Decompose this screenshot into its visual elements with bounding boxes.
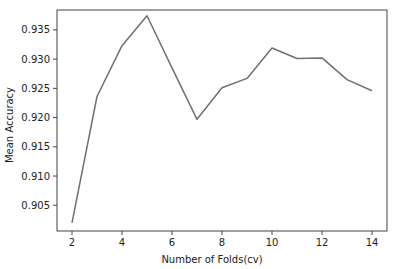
y-tick-label: 0.915: [21, 141, 50, 152]
x-tick-label: 10: [266, 237, 279, 248]
plot-frame: [57, 10, 387, 231]
x-axis: 2468101214: [69, 231, 379, 248]
y-tick-label: 0.920: [21, 112, 50, 123]
y-tick-label: 0.930: [21, 54, 50, 65]
y-axis-label: Mean Accuracy: [4, 87, 15, 163]
x-axis-label: Number of Folds(cv): [161, 254, 262, 265]
plot-area: [57, 10, 387, 231]
y-tick-label: 0.925: [21, 83, 50, 94]
line-chart: 0.9050.9100.9150.9200.9250.9300.935 2468…: [0, 0, 400, 269]
x-tick-label: 6: [169, 237, 175, 248]
x-tick-label: 2: [69, 237, 75, 248]
y-tick-label: 0.905: [21, 200, 50, 211]
x-tick-label: 8: [219, 237, 225, 248]
y-tick-label: 0.935: [21, 24, 50, 35]
x-tick-label: 12: [316, 237, 329, 248]
x-tick-label: 4: [119, 237, 125, 248]
x-tick-label: 14: [366, 237, 379, 248]
y-tick-label: 0.910: [21, 171, 50, 182]
series-line: [72, 16, 372, 223]
y-axis: 0.9050.9100.9150.9200.9250.9300.935: [21, 24, 57, 210]
